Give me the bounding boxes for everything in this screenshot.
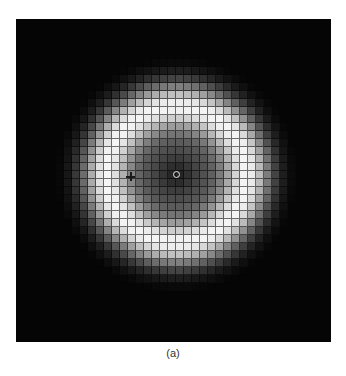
grid-cell	[24, 43, 32, 51]
grid-cell	[208, 59, 216, 67]
grid-cell	[120, 251, 128, 259]
grid-cell	[264, 291, 272, 299]
grid-cell	[144, 291, 152, 299]
grid-cell	[16, 131, 24, 139]
grid-cell	[264, 131, 272, 139]
grid-cell	[256, 51, 264, 59]
grid-cell	[120, 35, 128, 43]
grid-cell	[80, 259, 88, 267]
grid-cell	[312, 235, 320, 243]
grid-cell	[224, 131, 232, 139]
grid-cell	[48, 115, 56, 123]
grid-cell	[264, 195, 272, 203]
grid-cell	[328, 243, 331, 251]
grid-cell	[120, 243, 128, 251]
grid-cell	[224, 331, 232, 339]
grid-cell	[208, 331, 216, 339]
grid-cell	[304, 99, 312, 107]
grid-cell	[176, 139, 184, 147]
grid-cell	[272, 123, 280, 131]
grid-cell	[280, 123, 288, 131]
grid-cell	[320, 115, 328, 123]
grid-cell	[96, 43, 104, 51]
grid-cell	[136, 147, 144, 155]
grid-cell	[128, 83, 136, 91]
grid-cell	[248, 19, 256, 27]
grid-cell	[208, 147, 216, 155]
grid-cell	[264, 163, 272, 171]
grid-cell	[64, 259, 72, 267]
grid-cell	[256, 147, 264, 155]
grid-cell	[120, 91, 128, 99]
grid-cell	[80, 91, 88, 99]
grid-cell	[32, 35, 40, 43]
grid-cell	[288, 307, 296, 315]
grid-cell	[280, 299, 288, 307]
grid-cell	[192, 275, 200, 283]
grid-cell	[136, 291, 144, 299]
grid-cell	[240, 251, 248, 259]
grid-cell	[280, 131, 288, 139]
grid-cell	[192, 243, 200, 251]
grid-cell	[216, 43, 224, 51]
grid-cell	[48, 35, 56, 43]
grid-cell	[272, 67, 280, 75]
grid-cell	[192, 107, 200, 115]
grid-cell	[152, 291, 160, 299]
grid-cell	[288, 187, 296, 195]
grid-cell	[56, 179, 64, 187]
grid-cell	[40, 43, 48, 51]
grid-cell	[56, 283, 64, 291]
grid-cell	[272, 243, 280, 251]
grid-cell	[48, 75, 56, 83]
grid-cell	[16, 83, 24, 91]
grid-cell	[168, 235, 176, 243]
grid-cell	[96, 291, 104, 299]
grid-cell	[128, 267, 136, 275]
grid-cell	[280, 43, 288, 51]
grid-cell	[328, 147, 331, 155]
grid-cell	[96, 203, 104, 211]
grid-cell	[16, 195, 24, 203]
grid-cell	[120, 315, 128, 323]
grid-cell	[128, 195, 136, 203]
grid-cell	[312, 219, 320, 227]
grid-cell	[304, 203, 312, 211]
grid-cell	[32, 339, 40, 342]
grid-cell	[304, 195, 312, 203]
grid-cell	[208, 43, 216, 51]
grid-cell	[304, 75, 312, 83]
grid-cell	[32, 83, 40, 91]
grid-cell	[176, 131, 184, 139]
grid-cell	[48, 123, 56, 131]
grid-cell	[320, 259, 328, 267]
grid-cell	[96, 83, 104, 91]
grid-cell	[48, 27, 56, 35]
grid-cell	[40, 139, 48, 147]
grid-cell	[96, 35, 104, 43]
grid-cell	[64, 163, 72, 171]
grid-cell	[96, 139, 104, 147]
grid-cell	[200, 235, 208, 243]
grid-cell	[208, 227, 216, 235]
grid-cell	[112, 91, 120, 99]
grid-cell	[264, 59, 272, 67]
grid-cell	[32, 323, 40, 331]
grid-cell	[312, 243, 320, 251]
grid-cell	[120, 339, 128, 342]
grid-cell	[40, 219, 48, 227]
grid-cell	[248, 59, 256, 67]
grid-cell	[152, 251, 160, 259]
grid-cell	[192, 27, 200, 35]
grid-cell	[48, 291, 56, 299]
grid-cell	[232, 179, 240, 187]
grid-cell	[40, 195, 48, 203]
grid-cell	[144, 315, 152, 323]
grid-cell	[312, 115, 320, 123]
grid-cell	[232, 83, 240, 91]
grid-cell	[104, 259, 112, 267]
grid-cell	[328, 299, 331, 307]
grid-cell	[312, 339, 320, 342]
grid-cell	[88, 227, 96, 235]
grid-cell	[184, 235, 192, 243]
